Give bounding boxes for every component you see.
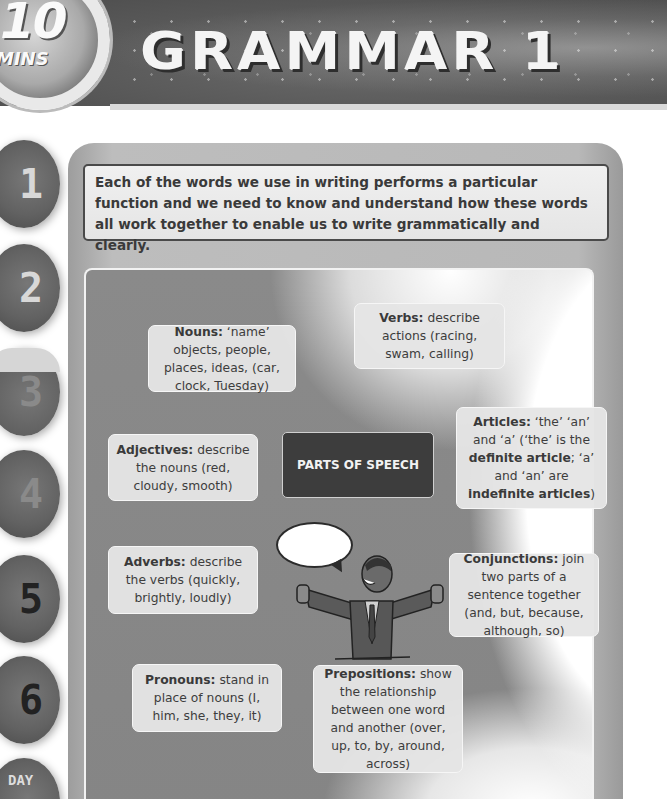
card-adverbs: Adverbs: describe the verbs (quickly, br… bbox=[108, 546, 258, 614]
card-prepositions: Prepositions: show the relationship betw… bbox=[313, 665, 463, 773]
term-pronouns: Pronouns: bbox=[145, 673, 215, 687]
day-tab-6[interactable]: 6 bbox=[0, 656, 60, 744]
day-tab-label: 5 bbox=[19, 576, 43, 622]
day-tab-3[interactable]: 3 bbox=[0, 348, 60, 436]
desc-articles-3: ) bbox=[590, 487, 595, 501]
term-nouns: Nouns: bbox=[174, 325, 223, 339]
day-tab-4[interactable]: 4 bbox=[0, 450, 60, 538]
term-conjunctions: Conjunctions: bbox=[464, 552, 559, 566]
day-tab-2[interactable]: 2 bbox=[0, 244, 60, 332]
card-adjectives: Adjectives: describe the nouns (red, clo… bbox=[108, 434, 258, 501]
card-nouns: Nouns: ‘name’ objects, people, places, i… bbox=[148, 325, 296, 392]
intro-text-box: Each of the words we use in writing perf… bbox=[83, 164, 609, 241]
day-tab-label: 1 bbox=[19, 161, 43, 207]
term-articles: Articles: bbox=[473, 415, 531, 429]
card-articles: Articles: ‘the’ ‘an’ and ‘a’ (‘the’ is t… bbox=[456, 407, 607, 509]
day-tab-label: 6 bbox=[19, 677, 43, 723]
day-tab-5[interactable]: 5 bbox=[0, 555, 60, 643]
desc-prepositions: show the relationship between one word a… bbox=[330, 667, 451, 771]
card-pronouns: Pronouns: stand in place of nouns (I, hi… bbox=[132, 664, 282, 732]
term-adverbs: Adverbs: bbox=[124, 555, 186, 569]
timer-minutes-unit: MINS bbox=[0, 48, 49, 69]
center-title-parts-of-speech: PARTS OF SPEECH bbox=[282, 432, 434, 498]
term-verbs: Verbs: bbox=[379, 311, 423, 325]
day-tab-label: 3 bbox=[19, 369, 43, 415]
timer-minutes-number: 10 bbox=[0, 0, 66, 50]
day-tab-label: 2 bbox=[19, 265, 43, 311]
term-prepositions: Prepositions: bbox=[324, 667, 416, 681]
header-divider bbox=[110, 104, 667, 110]
speaking-man-illustration bbox=[295, 549, 445, 669]
day-tab-label: 4 bbox=[19, 471, 43, 517]
term-adjectives: Adjectives: bbox=[116, 443, 193, 457]
term-definite-article: definite article bbox=[469, 451, 571, 465]
center-title-text: PARTS OF SPEECH bbox=[297, 458, 419, 472]
day-tab-1[interactable]: 1 bbox=[0, 140, 60, 228]
page-title: GRAMMAR 1 bbox=[140, 24, 565, 79]
term-indefinite-articles: indefinite articles bbox=[468, 487, 590, 501]
card-conjunctions: Conjunctions: join two parts of a senten… bbox=[449, 553, 599, 637]
card-verbs: Verbs: describe actions (racing, swam, c… bbox=[354, 303, 505, 369]
day-tab-prefix: DAY bbox=[8, 772, 33, 788]
